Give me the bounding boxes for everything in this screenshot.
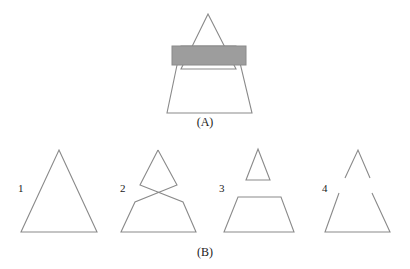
option-4-chevron-and-open-triangle-polyline-1 bbox=[345, 150, 370, 178]
option-4-chevron-and-open-triangle-polyline-2 bbox=[325, 193, 390, 232]
option-3-triangle-and-trapezoid-polygon-1 bbox=[246, 149, 270, 180]
option-1-large-triangle-polygon-1 bbox=[21, 150, 97, 232]
caption-panel-b: (B) bbox=[0, 245, 410, 260]
option-2-crossed-bowtie-polyline-1 bbox=[121, 150, 196, 232]
option-label-4: 4 bbox=[322, 182, 328, 194]
panel-a-horizontal-bar bbox=[172, 46, 246, 65]
caption-panel-a: (A) bbox=[0, 115, 410, 130]
figure-container: (A) (B) 1 2 3 4 bbox=[0, 0, 410, 269]
option-label-1: 1 bbox=[18, 182, 24, 194]
option-label-2: 2 bbox=[120, 182, 126, 194]
option-label-3: 3 bbox=[219, 182, 225, 194]
option-3-triangle-and-trapezoid-polygon-2 bbox=[224, 197, 294, 232]
figure-drawing bbox=[0, 0, 410, 269]
